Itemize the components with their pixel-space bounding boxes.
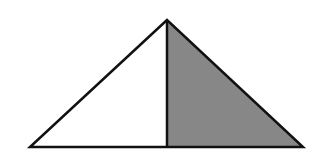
split-triangle-diagram <box>0 0 320 165</box>
